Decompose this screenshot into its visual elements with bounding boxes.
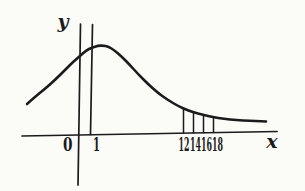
y-axis-label: y — [56, 10, 70, 32]
density-curve — [27, 46, 266, 122]
tick-label-14: 14 — [190, 134, 201, 155]
x-axis-label: x — [265, 130, 278, 152]
tick-label-12: 12 — [179, 134, 190, 155]
unit-vertical-line — [91, 25, 93, 135]
x-axis-line — [22, 132, 277, 137]
tick-label-16: 16 — [201, 134, 212, 155]
drawn-geometry — [22, 24, 277, 185]
distribution-sketch-figure: y x 0 1 12 14 16 18 — [0, 0, 305, 191]
tick-label-18: 18 — [212, 134, 223, 155]
y-axis-line — [78, 24, 81, 185]
curve-canvas: y x 0 1 12 14 16 18 — [0, 0, 305, 191]
unit-tick-label: 1 — [93, 134, 100, 155]
origin-tick-label: 0 — [63, 134, 73, 155]
